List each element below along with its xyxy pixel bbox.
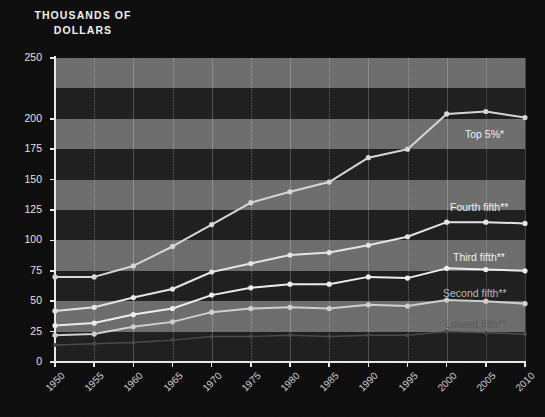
- series-point: [444, 220, 449, 225]
- series-point: [327, 306, 332, 311]
- series-point: [445, 330, 449, 334]
- series-point: [131, 263, 136, 268]
- series-point: [52, 333, 57, 338]
- series-point: [170, 319, 175, 324]
- series-point: [406, 333, 410, 337]
- series-point: [327, 334, 331, 338]
- series-point: [171, 338, 175, 342]
- series-point: [484, 331, 488, 335]
- series-point: [327, 282, 332, 287]
- series-point: [131, 312, 136, 317]
- series-point: [248, 200, 253, 205]
- series-point: [249, 334, 253, 338]
- series-label-third-fifth: Third fifth**: [453, 251, 505, 263]
- series-point: [287, 305, 292, 310]
- series-point: [405, 303, 410, 308]
- series-point: [523, 332, 527, 336]
- series-point: [209, 222, 214, 227]
- series-point: [52, 323, 57, 328]
- series-point: [287, 252, 292, 257]
- series-point: [248, 285, 253, 290]
- series-point: [52, 274, 57, 279]
- series-point: [170, 244, 175, 249]
- chart-root: THOUSANDS OF DOLLARS 2502001751501251007…: [0, 0, 545, 417]
- series-point: [405, 234, 410, 239]
- series-point: [170, 286, 175, 291]
- series-point: [209, 310, 214, 315]
- series-point: [92, 342, 96, 346]
- series-point: [170, 306, 175, 311]
- series-label-lowest-fifth: Lowest fifth**: [445, 318, 506, 330]
- series-point: [92, 320, 97, 325]
- series-point: [405, 147, 410, 152]
- series-point: [210, 334, 214, 338]
- series-point: [248, 261, 253, 266]
- series-point: [327, 250, 332, 255]
- series-point: [366, 155, 371, 160]
- series-point: [483, 220, 488, 225]
- series-point: [522, 221, 527, 226]
- series-point: [92, 305, 97, 310]
- series-point: [92, 331, 97, 336]
- series-point: [287, 282, 292, 287]
- series-point: [131, 295, 136, 300]
- series-point: [288, 333, 292, 337]
- series-point: [209, 293, 214, 298]
- series-point: [366, 243, 371, 248]
- series-point: [327, 179, 332, 184]
- series-point: [444, 266, 449, 271]
- series-point: [209, 269, 214, 274]
- series-point: [287, 189, 292, 194]
- series-point: [366, 333, 370, 337]
- series-point: [248, 306, 253, 311]
- series-point: [522, 115, 527, 120]
- series-label-top-5: Top 5%*: [465, 128, 504, 140]
- series-point: [405, 276, 410, 281]
- series-point: [366, 274, 371, 279]
- series-point: [483, 299, 488, 304]
- series-point: [444, 111, 449, 116]
- series-label-second-fifth: Second fifth**: [443, 287, 507, 299]
- series-point: [131, 324, 136, 329]
- series-point: [131, 341, 135, 345]
- series-point: [366, 302, 371, 307]
- series-point: [52, 308, 57, 313]
- series-point: [483, 109, 488, 114]
- series-point: [522, 268, 527, 273]
- series-point: [483, 267, 488, 272]
- series-point: [522, 301, 527, 306]
- series-point: [53, 343, 57, 347]
- series-label-fourth-fifth: Fourth fifth**: [450, 201, 508, 213]
- series-point: [92, 274, 97, 279]
